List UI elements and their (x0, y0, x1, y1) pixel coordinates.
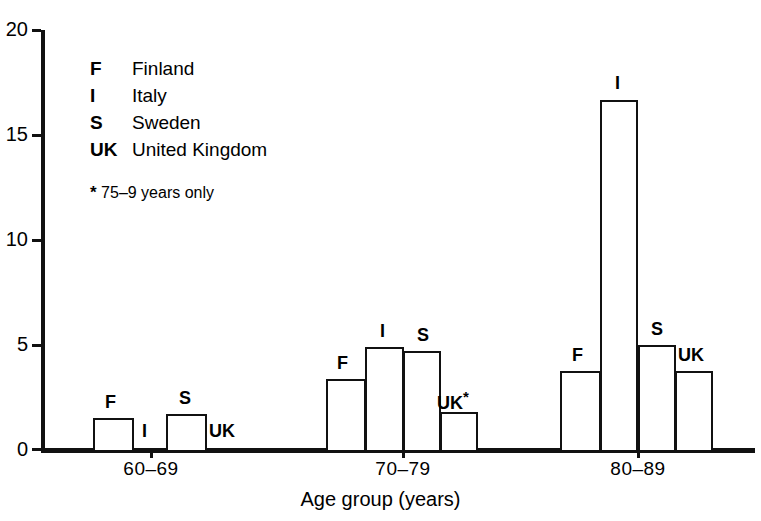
y-axis-line (41, 30, 45, 451)
footnote-marker-icon: * (463, 388, 469, 405)
bar-60-69-sweden (166, 414, 207, 450)
bar-70-79-uk (440, 412, 478, 450)
bar-label-70-79-italy: I (380, 321, 385, 341)
legend-key-sweden: S (90, 109, 132, 136)
y-tick-label-15: 15 (0, 124, 28, 144)
y-tick-label-10: 10 (0, 229, 28, 249)
x-group-label-80-89: 80–89 (610, 458, 665, 480)
bar-70-79-sweden (403, 351, 441, 450)
bar-80-89-italy (600, 100, 638, 450)
x-axis-title: Age group (years) (0, 487, 761, 511)
bar-70-79-italy (365, 347, 404, 450)
y-tick-label-0: 0 (0, 439, 28, 459)
bar-label-60-69-sweden: S (179, 388, 191, 408)
legend-row-sweden: S Sweden (90, 109, 267, 136)
bar-label-70-79-uk-text: UK (437, 393, 463, 413)
bar-80-89-uk (675, 371, 713, 450)
bar-chart-figure: 20 15 10 5 0 60–69 70–79 80–89 Age group… (0, 0, 761, 521)
bar-80-89-finland (560, 371, 601, 450)
bar-label-70-79-uk: UK* (437, 387, 469, 413)
bar-label-80-89-sweden: S (651, 319, 663, 339)
y-tick-label-20: 20 (0, 19, 28, 39)
legend-row-uk: UK United Kingdom (90, 136, 267, 163)
legend-name-uk: United Kingdom (132, 136, 267, 163)
footnote-text: 75–9 years only (101, 184, 214, 201)
bar-label-70-79-finland: F (337, 353, 348, 373)
bar-label-80-89-uk: UK (678, 345, 704, 365)
legend-row-finland: F Finland (90, 55, 267, 82)
x-group-label-60-69: 60–69 (123, 458, 178, 480)
legend-name-italy: Italy (132, 82, 167, 109)
bar-label-70-79-sweden: S (417, 325, 429, 345)
legend-key-italy: I (90, 82, 132, 109)
legend-row-italy: I Italy (90, 82, 267, 109)
legend: F Finland I Italy S Sweden UK United Kin… (90, 55, 267, 163)
legend-key-uk: UK (90, 136, 132, 163)
legend-name-sweden: Sweden (132, 109, 201, 136)
legend-name-finland: Finland (132, 55, 194, 82)
legend-key-finland: F (90, 55, 132, 82)
bar-80-89-sweden (638, 345, 676, 450)
footnote: * 75–9 years only (90, 183, 214, 203)
bar-label-60-69-italy: I (142, 421, 147, 441)
footnote-star-icon: * (90, 183, 97, 202)
y-tick-label-5: 5 (0, 334, 28, 354)
bar-60-69-finland (93, 418, 134, 450)
bar-label-60-69-uk: UK (209, 421, 235, 441)
x-group-label-70-79: 70–79 (375, 458, 430, 480)
bar-70-79-finland (326, 379, 366, 450)
bar-label-80-89-italy: I (615, 73, 620, 93)
bar-label-60-69-finland: F (105, 392, 116, 412)
bar-label-80-89-finland: F (572, 345, 583, 365)
x-tick-60-69 (150, 448, 153, 458)
